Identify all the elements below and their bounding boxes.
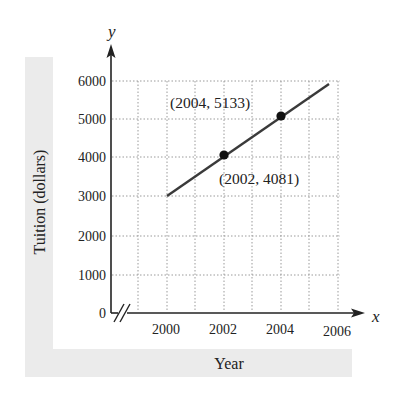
- y-axis: [107, 44, 116, 313]
- point-label-2002: (2002, 4081): [219, 170, 299, 188]
- grid: [112, 81, 340, 312]
- point-label-2004: (2004, 5133): [170, 94, 250, 112]
- x-axis: [111, 304, 365, 322]
- svg-text:0: 0: [99, 306, 106, 321]
- svg-text:2002: 2002: [209, 322, 237, 337]
- svg-text:2004: 2004: [266, 322, 294, 337]
- data-point-2004: [276, 111, 285, 120]
- x-axis-variable: x: [371, 307, 380, 326]
- chart-figure: 6000 5000 4000 3000 2000 1000 0 2000 200…: [0, 0, 404, 394]
- svg-text:5000: 5000: [78, 112, 106, 127]
- y-axis-title: Tuition (dollars): [31, 150, 49, 255]
- svg-text:6000: 6000: [78, 74, 106, 89]
- svg-text:2000: 2000: [152, 322, 180, 337]
- svg-text:2006: 2006: [323, 324, 351, 339]
- svg-text:4000: 4000: [78, 150, 106, 165]
- chart-svg: 6000 5000 4000 3000 2000 1000 0 2000 200…: [0, 0, 404, 394]
- data-point-2002: [219, 150, 228, 159]
- y-axis-variable: y: [106, 22, 116, 41]
- svg-text:2000: 2000: [78, 229, 106, 244]
- x-axis-title: Year: [214, 355, 244, 372]
- svg-text:3000: 3000: [78, 189, 106, 204]
- y-tick-labels: 6000 5000 4000 3000 2000 1000 0: [78, 74, 106, 321]
- x-tick-labels: 2000 2002 2004 2006: [152, 322, 351, 339]
- svg-text:1000: 1000: [78, 268, 106, 283]
